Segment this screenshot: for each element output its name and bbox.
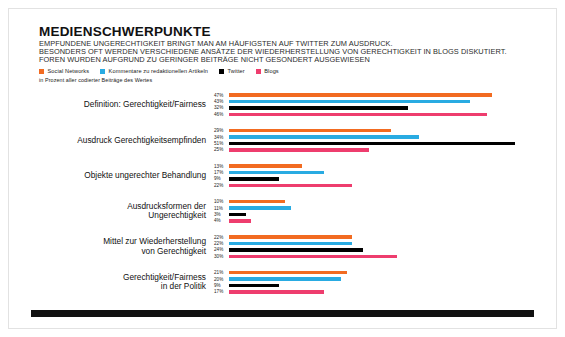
bar-segment xyxy=(229,219,251,223)
bar-group: Ausdruck Gerechtigkeitsempfinden29%34%51… xyxy=(39,125,538,155)
square-swatch-icon xyxy=(39,69,44,74)
bar-value-label: 24% xyxy=(214,247,229,252)
bar-segment xyxy=(229,284,279,288)
bar-segment xyxy=(229,135,419,139)
bar-value-label: 46% xyxy=(214,112,229,117)
bar-value-label: 9% xyxy=(214,283,229,288)
bar-value-label: 11% xyxy=(214,206,229,211)
category-label: Definition: Gerechtigkeit/Fairness xyxy=(39,100,214,109)
bar-value-label: 43% xyxy=(214,99,229,104)
square-swatch-icon xyxy=(256,69,261,74)
bar-segment xyxy=(229,177,279,181)
bar-chart: Definition: Gerechtigkeit/Fairness47%43%… xyxy=(39,90,538,298)
bar-segment xyxy=(229,206,291,210)
bar-group: Definition: Gerechtigkeit/Fairness47%43%… xyxy=(39,90,538,120)
bar-value-label: 10% xyxy=(214,199,229,204)
bar-segment xyxy=(229,93,492,97)
bar-group: Gerechtigkeit/Fairnessin der Politik21%2… xyxy=(39,267,538,297)
bar-segment xyxy=(229,148,369,152)
bar-segment xyxy=(229,100,470,104)
bar-group: Mittel zur Wiederherstellungvon Gerechti… xyxy=(39,232,538,262)
category-label-line: von Gerechtigkeit xyxy=(39,247,206,256)
bar-value-label: 17% xyxy=(214,170,229,175)
category-label-line: in der Politik xyxy=(39,282,206,291)
infographic-page: MEDIENSCHWERPUNKTE EMPFUNDENE UNGERECHTI… xyxy=(0,0,565,337)
legend-label: Blogs xyxy=(264,68,279,74)
bar-value-label: 13% xyxy=(214,164,229,169)
bar-value-label: 30% xyxy=(214,254,229,259)
bar-value-label: 20% xyxy=(214,277,229,282)
category-label: Gerechtigkeit/Fairnessin der Politik xyxy=(39,273,214,292)
category-label-line: Ausdruck Gerechtigkeitsempfinden xyxy=(39,136,206,145)
bar-value-label: 4% xyxy=(214,218,229,223)
bar-row: 17% xyxy=(214,289,538,295)
chart-legend: Social Networks Kommentare zu redaktione… xyxy=(39,68,538,74)
square-swatch-icon xyxy=(219,69,224,74)
legend-label: Social Networks xyxy=(48,68,90,74)
category-label-line: Definition: Gerechtigkeit/Fairness xyxy=(39,100,206,109)
legend-label: Twitter xyxy=(228,68,245,74)
bar-segment xyxy=(229,164,302,168)
bar-group-bars: 13%17%9%22% xyxy=(214,161,538,191)
legend-item-social-networks: Social Networks xyxy=(39,68,89,74)
bar-segment xyxy=(229,200,285,204)
legend-item-twitter: Twitter xyxy=(219,68,245,74)
bar-value-label: 25% xyxy=(214,147,229,152)
bar-segment xyxy=(229,235,352,239)
bar-group-bars: 10%11%3%4% xyxy=(214,196,538,226)
bar-value-label: 22% xyxy=(214,183,229,188)
category-label: Mittel zur Wiederherstellungvon Gerechti… xyxy=(39,237,214,256)
bar-value-label: 22% xyxy=(214,235,229,240)
legend-label: Kommentare zu redaktionellen Artikeln xyxy=(109,68,208,74)
bar-group-bars: 22%22%24%30% xyxy=(214,232,538,262)
bar-segment xyxy=(229,213,246,217)
bar-segment xyxy=(229,277,341,281)
bar-value-label: 51% xyxy=(214,141,229,146)
bar-group: Ausdrucksformen derUngerechtigkeit10%11%… xyxy=(39,196,538,226)
paper-frame: MEDIENSCHWERPUNKTE EMPFUNDENE UNGERECHTI… xyxy=(8,8,557,329)
bar-value-label: 21% xyxy=(214,270,229,275)
bar-row: 46% xyxy=(214,111,538,117)
bar-group: Objekte ungerechter Behandlung13%17%9%22… xyxy=(39,161,538,191)
page-title: MEDIENSCHWERPUNKTE xyxy=(39,25,538,39)
content-area: MEDIENSCHWERPUNKTE EMPFUNDENE UNGERECHTI… xyxy=(39,21,538,318)
bar-segment xyxy=(229,171,324,175)
bar-segment xyxy=(229,106,408,110)
category-label: Objekte ungerechter Behandlung xyxy=(39,171,214,180)
legend-item-kommentare: Kommentare zu redaktionellen Artikeln xyxy=(100,68,208,74)
bar-value-label: 34% xyxy=(214,135,229,140)
bar-segment xyxy=(229,129,391,133)
bar-group-bars: 21%20%9%17% xyxy=(214,267,538,297)
category-label-line: Objekte ungerechter Behandlung xyxy=(39,171,206,180)
bar-segment xyxy=(229,113,487,117)
chart-note: in Prozent aller codierter Beiträge des … xyxy=(39,77,538,83)
bar-segment xyxy=(229,242,352,246)
bar-segment xyxy=(229,142,515,146)
bar-row: 25% xyxy=(214,147,538,153)
category-label: Ausdruck Gerechtigkeitsempfinden xyxy=(39,136,214,145)
bar-row: 4% xyxy=(214,218,538,224)
subtitle-line-3: FOREN WURDEN AUFGRUND ZU GERINGER BEITRÄ… xyxy=(39,56,538,64)
footer-bar xyxy=(31,310,534,317)
legend-item-blogs: Blogs xyxy=(256,68,279,74)
bar-segment xyxy=(229,255,397,259)
bar-value-label: 32% xyxy=(214,105,229,110)
bar-group-bars: 47%43%32%46% xyxy=(214,90,538,120)
category-label-line: Ungerechtigkeit xyxy=(39,211,206,220)
bar-segment xyxy=(229,248,363,252)
bar-value-label: 3% xyxy=(214,212,229,217)
bar-segment xyxy=(229,271,347,275)
bar-segment xyxy=(229,184,352,188)
bar-group-bars: 29%34%51%25% xyxy=(214,125,538,155)
bar-segment xyxy=(229,290,324,294)
bar-row: 22% xyxy=(214,182,538,188)
bar-row: 30% xyxy=(214,253,538,259)
bar-value-label: 9% xyxy=(214,176,229,181)
bar-value-label: 29% xyxy=(214,128,229,133)
square-swatch-icon xyxy=(100,69,105,74)
bar-value-label: 17% xyxy=(214,289,229,294)
bar-value-label: 22% xyxy=(214,241,229,246)
category-label: Ausdrucksformen derUngerechtigkeit xyxy=(39,202,214,221)
bar-value-label: 47% xyxy=(214,93,229,98)
